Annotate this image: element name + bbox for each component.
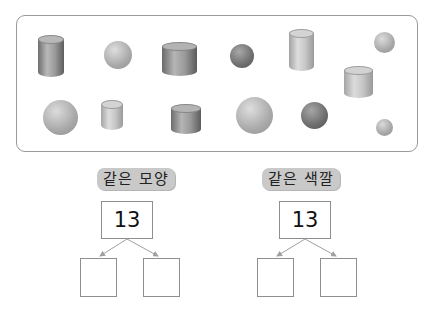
arrow-color-right — [305, 239, 336, 256]
split-arrows — [0, 0, 433, 312]
arrow-shape-left — [100, 239, 127, 256]
arrow-shape-right — [127, 239, 158, 256]
arrow-color-left — [277, 239, 305, 256]
